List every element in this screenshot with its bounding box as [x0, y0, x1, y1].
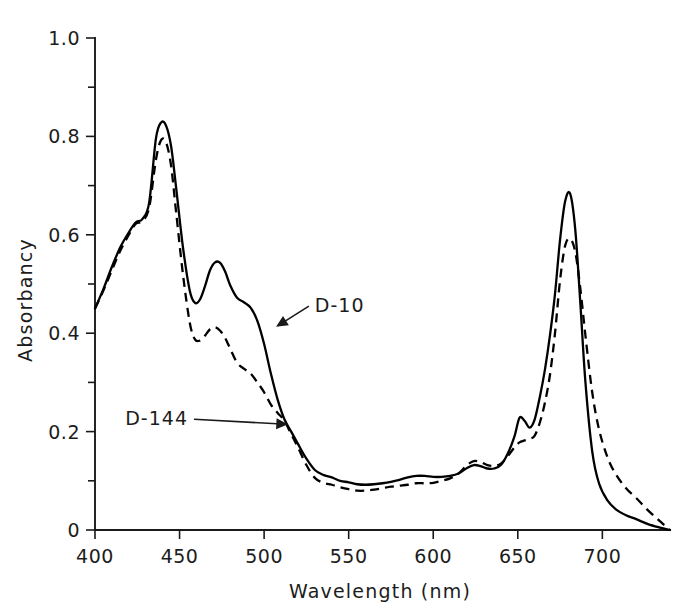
- x-tick-label: 450: [161, 545, 199, 567]
- x-tick-label: 650: [499, 545, 537, 567]
- y-tick-label: 1.0: [48, 27, 80, 49]
- spectrum-curves: [95, 122, 670, 530]
- curve-d-10: [95, 122, 670, 530]
- y-tick-label: 0.2: [48, 421, 80, 443]
- y-tick-label: 0: [67, 519, 80, 541]
- x-tick-label: 400: [76, 545, 114, 567]
- annotation-arrow-head: [278, 317, 288, 325]
- absorption-spectrum-figure: 00.20.40.60.81.0 400450500550600650700 A…: [0, 0, 687, 615]
- y-tick-label: 0.4: [48, 322, 80, 344]
- plot-canvas: 00.20.40.60.81.0 400450500550600650700 A…: [0, 0, 687, 615]
- x-axis-title: Wavelength (nm): [289, 580, 471, 602]
- y-axis-ticks: [86, 38, 95, 530]
- x-axis-ticks: [95, 530, 602, 539]
- curve-d-144: [95, 139, 670, 530]
- annotation-label-d-10: D-10: [315, 294, 365, 316]
- x-tick-label: 600: [414, 545, 452, 567]
- y-tick-label: 0.6: [48, 224, 80, 246]
- x-tick-label: 550: [330, 545, 368, 567]
- y-axis-title: Absorbancy: [14, 238, 36, 362]
- y-axis-tick-labels: 00.20.40.60.81.0: [48, 27, 80, 541]
- x-tick-label: 700: [583, 545, 621, 567]
- annotation-arrow-line: [194, 419, 286, 424]
- annotation-label-d-144: D-144: [125, 407, 188, 429]
- series-annotations: D-10D-144: [125, 294, 364, 429]
- x-axis-tick-labels: 400450500550600650700: [76, 545, 621, 567]
- y-tick-label: 0.8: [48, 125, 80, 147]
- x-tick-label: 500: [245, 545, 283, 567]
